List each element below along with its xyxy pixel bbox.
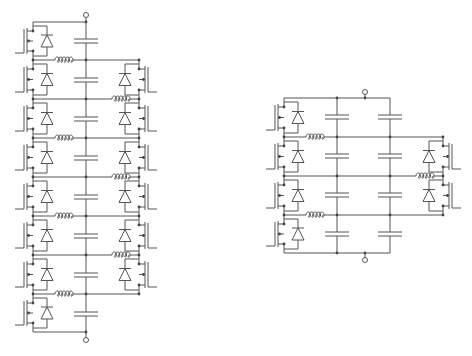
junction-node: [85, 176, 88, 179]
junction-node: [442, 136, 445, 139]
mosfet-with-diode-left: [15, 216, 53, 255]
capacitor-icon: [378, 193, 402, 197]
junction-node: [27, 40, 30, 43]
junction-node: [138, 137, 141, 140]
capacitor-icon: [325, 115, 349, 119]
junction-node: [138, 284, 141, 287]
junction-node: [32, 89, 35, 92]
junction-node: [142, 234, 145, 237]
junction-node: [442, 166, 445, 169]
junction-node: [283, 136, 286, 139]
junction-node: [32, 245, 35, 248]
junction-node: [389, 214, 392, 217]
capacitor-icon: [325, 232, 349, 236]
junction-node: [278, 155, 281, 158]
capacitor-icon: [74, 234, 98, 238]
mosfet-with-diode-left: [266, 137, 304, 176]
mosfet-with-diode-left: [266, 98, 304, 137]
inductor-icon: [416, 173, 434, 178]
junction-node: [27, 273, 30, 276]
junction-node: [142, 273, 145, 276]
diode-icon: [41, 307, 53, 319]
diode-icon: [423, 151, 435, 163]
junction-node: [138, 215, 141, 218]
diode-icon: [119, 230, 131, 242]
diode-icon: [292, 151, 304, 163]
diode-icon: [119, 152, 131, 164]
capacitor-icon: [74, 39, 98, 43]
inductor-icon: [306, 212, 324, 217]
junction-node: [138, 254, 141, 257]
diode-icon: [41, 35, 53, 47]
mosfet-with-diode-right: [423, 176, 461, 215]
mosfet-with-diode-right: [119, 99, 157, 138]
junction-node: [138, 206, 141, 209]
junction-node: [138, 146, 141, 149]
junction-node: [32, 302, 35, 305]
junction-node: [283, 127, 286, 130]
diode-icon: [119, 191, 131, 203]
diode-icon: [41, 191, 53, 203]
junction-node: [138, 128, 141, 131]
diode-icon: [41, 230, 53, 242]
junction-node: [32, 176, 35, 179]
junction-node: [32, 254, 35, 257]
junction-node: [278, 116, 281, 119]
junction-node: [138, 98, 141, 101]
terminal-icon: [363, 258, 368, 263]
junction-node: [27, 195, 30, 198]
junction-node: [142, 117, 145, 120]
mosfet-with-diode-left: [15, 177, 53, 216]
mosfet-with-diode-left: [15, 138, 53, 177]
junction-node: [138, 107, 141, 110]
junction-node: [336, 175, 339, 178]
junction-node: [32, 98, 35, 101]
left-converter-circuit: [15, 13, 157, 343]
junction-node: [85, 215, 88, 218]
inductor-coil: [306, 212, 324, 217]
inductor-coil: [306, 134, 324, 139]
right-converter-circuit: [266, 90, 461, 263]
diode-icon: [119, 74, 131, 86]
junction-node: [142, 156, 145, 159]
mosfet-with-diode-right: [119, 60, 157, 99]
diode-icon: [41, 113, 53, 125]
junction-node: [85, 293, 88, 296]
diode-icon: [119, 113, 131, 125]
inductor-coil: [55, 213, 73, 218]
junction-node: [142, 78, 145, 81]
junction-node: [138, 224, 141, 227]
junction-node: [283, 223, 286, 226]
inductor-coil: [55, 291, 73, 296]
mosfet-with-diode-left: [266, 176, 304, 215]
junction-node: [278, 233, 281, 236]
diode-icon: [41, 152, 53, 164]
junction-node: [32, 224, 35, 227]
inductor-icon: [55, 291, 73, 296]
junction-node: [85, 137, 88, 140]
junction-node: [138, 176, 141, 179]
diode-icon: [41, 269, 53, 281]
junction-node: [32, 146, 35, 149]
junction-node: [283, 145, 286, 148]
junction-node: [85, 59, 88, 62]
junction-node: [32, 68, 35, 71]
junction-node: [336, 214, 339, 217]
junction-node: [446, 155, 449, 158]
junction-node: [85, 254, 88, 257]
inductor-icon: [306, 134, 324, 139]
junction-node: [32, 30, 35, 33]
inductor-coil: [416, 173, 434, 178]
junction-node: [32, 128, 35, 131]
mosfet-with-diode-left: [15, 22, 53, 60]
junction-node: [138, 89, 141, 92]
junction-node: [283, 205, 286, 208]
junction-node: [336, 136, 339, 139]
junction-node: [32, 322, 35, 325]
junction-node: [32, 185, 35, 188]
mosfet-with-diode-left: [15, 294, 53, 332]
inductor-icon: [55, 57, 73, 62]
junction-node: [32, 293, 35, 296]
junction-node: [283, 106, 286, 109]
mosfet-with-diode-right: [119, 138, 157, 177]
